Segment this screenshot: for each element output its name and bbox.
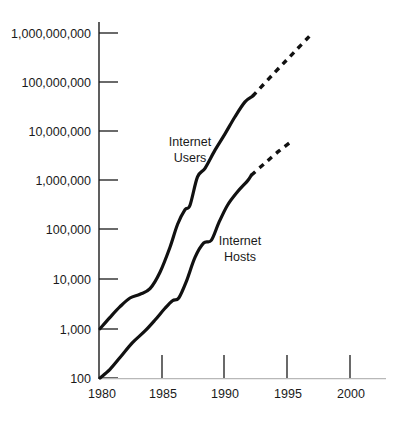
x-tick-label-1990: 1990 bbox=[211, 387, 239, 401]
y-tick-label-100000: 100,000 bbox=[46, 223, 91, 237]
internet-users-label-line1: Internet bbox=[169, 135, 212, 149]
y-tick-label-10000: 10,000 bbox=[53, 273, 91, 287]
internet-users-label-line2: Users bbox=[174, 151, 207, 165]
internet-users-dashed-projection bbox=[253, 33, 313, 96]
y-tick-label-10000000: 10,000,000 bbox=[28, 125, 91, 139]
x-tick-label-1985: 1985 bbox=[149, 387, 177, 401]
internet-hosts-label-line1: Internet bbox=[219, 234, 262, 248]
internet-users-annotation: Internet Users bbox=[169, 135, 212, 165]
internet-growth-chart: 1,000,000,000 100,000,000 10,000,000 1,0… bbox=[0, 0, 413, 427]
internet-hosts-solid-line bbox=[100, 175, 251, 378]
internet-users-solid-line bbox=[100, 96, 253, 328]
y-tick-label-100: 100 bbox=[70, 372, 91, 386]
series-internet-users bbox=[100, 33, 313, 329]
internet-hosts-label-line2: Hosts bbox=[224, 250, 256, 264]
x-tick-label-2000: 2000 bbox=[337, 387, 365, 401]
y-tick-label-1000000000: 1,000,000,000 bbox=[11, 27, 91, 41]
y-tick-label-1000000: 1,000,000 bbox=[35, 174, 91, 188]
y-tick-label-100000000: 100,000,000 bbox=[21, 76, 91, 90]
series-internet-hosts bbox=[100, 143, 290, 378]
x-axis-group bbox=[100, 355, 386, 379]
x-tick-labels: 1980 1985 1990 1995 2000 bbox=[88, 387, 365, 401]
internet-hosts-dashed-projection bbox=[251, 143, 290, 176]
x-tick-label-1980: 1980 bbox=[88, 387, 116, 401]
x-tick-label-1995: 1995 bbox=[274, 387, 302, 401]
y-tick-label-1000: 1,000 bbox=[60, 323, 91, 337]
internet-hosts-annotation: Internet Hosts bbox=[219, 234, 262, 264]
chart-canvas: 1,000,000,000 100,000,000 10,000,000 1,0… bbox=[0, 0, 413, 427]
y-tick-labels: 1,000,000,000 100,000,000 10,000,000 1,0… bbox=[11, 27, 91, 386]
